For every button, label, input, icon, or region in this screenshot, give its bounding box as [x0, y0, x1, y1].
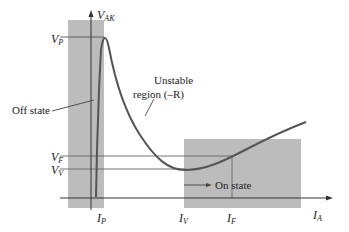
- vv-label: VV: [51, 164, 63, 178]
- x-axis-label: IA: [313, 209, 322, 223]
- on-state-label: On state: [215, 180, 251, 191]
- if-label: IF: [227, 212, 236, 226]
- y-axis-arrow-icon: [89, 10, 94, 17]
- iv-label: IV: [179, 212, 188, 226]
- vp-label: VP: [51, 33, 63, 47]
- unstable-label-line2: region (–R): [133, 89, 184, 100]
- y-axis-label: VAK: [97, 9, 115, 23]
- off-state-label: Off state: [12, 105, 50, 116]
- x-axis-arrow-icon: [326, 196, 333, 201]
- unstable-leader: [145, 99, 154, 116]
- unstable-label-line1: Unstable: [154, 75, 193, 86]
- ip-label: IP: [97, 212, 106, 226]
